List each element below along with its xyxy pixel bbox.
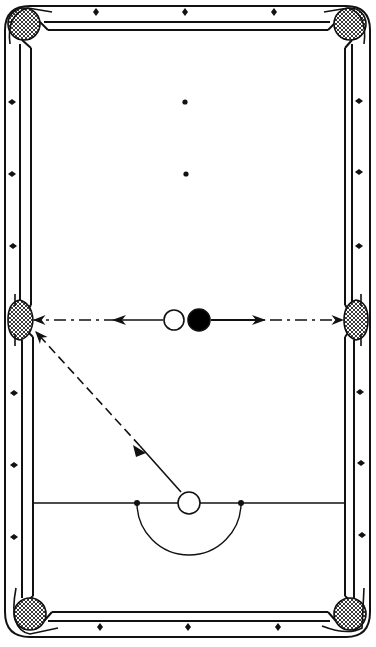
diamond-icon <box>358 532 366 538</box>
pocket-bottom-left <box>14 588 58 634</box>
white-object-ball <box>164 310 184 330</box>
diamond-icon <box>10 390 18 396</box>
diamond-icon <box>10 534 18 540</box>
diamond-icon <box>97 623 103 631</box>
diamond-icon <box>355 98 363 104</box>
diamond-icon <box>9 243 17 249</box>
diamond-icon <box>355 243 363 249</box>
black-ball <box>188 309 210 331</box>
pool-table-diagram <box>0 0 376 647</box>
diamond-icon <box>357 460 365 466</box>
diamond-icon <box>275 623 281 631</box>
blue-spot <box>183 171 188 176</box>
cue-ball-path <box>140 446 181 492</box>
diamond-icon <box>356 389 364 395</box>
pocket-middle-left <box>8 294 33 346</box>
diamond-icon <box>8 99 16 105</box>
pocket-middle-right <box>344 294 368 346</box>
diamond-icon <box>10 462 18 468</box>
table-spots <box>182 99 188 176</box>
pink-spot <box>182 99 187 104</box>
diamond-icon <box>271 8 277 16</box>
cue-ball <box>178 492 200 514</box>
pocket-top-right <box>324 8 366 44</box>
diamond-icon <box>185 623 191 631</box>
diamond-icon <box>8 171 16 177</box>
diamond-icon <box>93 8 99 16</box>
balls <box>164 309 210 514</box>
diamond-icon <box>182 8 188 16</box>
diamond-icon <box>355 169 363 175</box>
shot-paths <box>34 315 343 492</box>
